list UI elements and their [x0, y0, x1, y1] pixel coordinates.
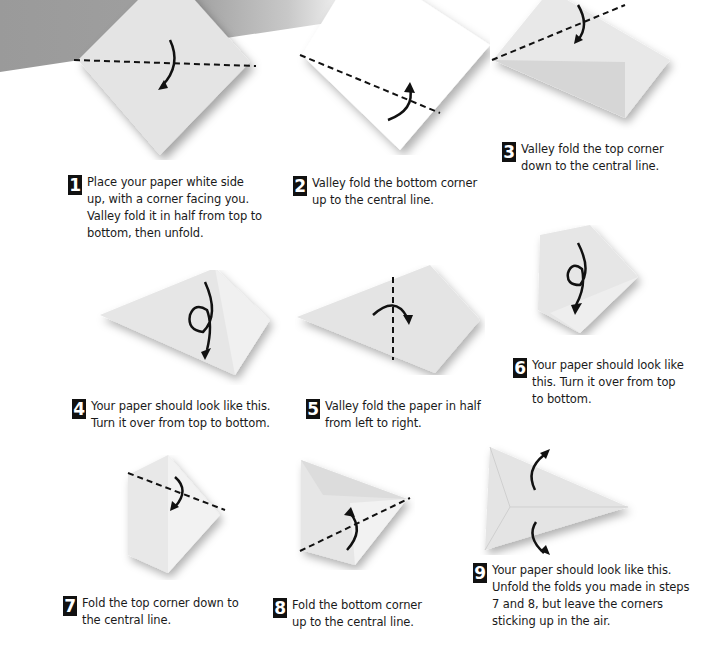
step-text: Your paper should look like this. Turn i… [72, 398, 302, 432]
step-number-badge: 9 [473, 563, 487, 583]
step-text: Place your paper white side up, with a c… [68, 174, 298, 242]
step-1-caption: 1 Place your paper white side up, with a… [68, 174, 298, 242]
step-text: Valley fold the top corner down to the c… [502, 141, 702, 175]
step-text: Your paper should look like this. Unfold… [473, 562, 706, 630]
step-text: Valley fold the paper in half from left … [306, 398, 506, 432]
step-5-caption: 5 Valley fold the paper in half from lef… [306, 398, 506, 432]
step-2-caption: 2 Valley fold the bottom corner up to th… [293, 175, 493, 209]
step-number-badge: 5 [306, 399, 320, 419]
step-text: Valley fold the bottom corner up to the … [293, 175, 493, 209]
step-number-badge: 2 [293, 176, 307, 196]
step-6-caption: 6 Your paper should look like this. Turn… [513, 357, 703, 408]
step-text: Your paper should look like this. Turn i… [513, 357, 703, 408]
step-4-caption: 4 Your paper should look like this. Turn… [72, 398, 302, 432]
step-6-diagram [530, 225, 650, 335]
step-number-badge: 8 [273, 598, 287, 618]
step-number-badge: 6 [513, 358, 527, 378]
step-7-caption: 7 Fold the top corner down to the centra… [63, 595, 263, 629]
step-number-badge: 4 [72, 399, 86, 419]
step-1-diagram [60, 0, 270, 160]
step-text: Fold the top corner down to the central … [63, 595, 263, 629]
step-9-caption: 9 Your paper should look like this. Unfo… [473, 562, 706, 630]
step-number-badge: 7 [63, 596, 77, 616]
step-3-caption: 3 Valley fold the top corner down to the… [502, 141, 702, 175]
step-9-diagram [480, 425, 640, 555]
step-text: Fold the bottom corner up to the central… [273, 597, 463, 631]
step-5-diagram [295, 265, 485, 375]
step-number-badge: 3 [502, 142, 516, 162]
step-8-caption: 8 Fold the bottom corner up to the centr… [273, 597, 463, 631]
step-2-diagram [290, 0, 490, 155]
step-4-diagram [95, 270, 290, 385]
step-3-diagram [490, 0, 706, 130]
step-8-diagram [295, 455, 415, 570]
step-number-badge: 1 [68, 175, 82, 195]
step-7-diagram [120, 455, 230, 580]
